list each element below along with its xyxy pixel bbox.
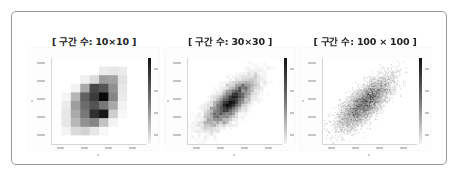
plot-card [300,48,430,150]
colorbar-tick [425,90,429,92]
colorbar-tick [425,134,429,136]
panel-100x100: [ 구간 수: 100 × 100 ] [300,12,430,162]
x-tick [328,147,335,149]
y-tick [308,80,316,82]
colorbar-tick [154,68,158,70]
x-tick [241,147,248,149]
y-tick [37,62,45,64]
panel-title: [ 구간 수: 30×30 ] [165,34,295,48]
panel-title: [ 구간 수: 100 × 100 ] [300,34,430,48]
x-axis-label [368,154,370,156]
y-tick [308,134,316,136]
y-axis-label [31,100,33,102]
heatmap-30x30 [187,58,282,145]
y-tick [37,116,45,118]
y-tick [173,116,181,118]
panel-title: [ 구간 수: 10×10 ] [29,34,159,48]
y-tick [173,62,181,64]
colorbar [419,58,422,144]
y-tick [37,98,45,100]
x-tick [57,147,64,149]
x-axis-label [233,154,235,156]
colorbar-tick [425,112,429,114]
x-tick [376,147,383,149]
y-tick [173,134,181,136]
colorbar [284,58,287,144]
heatmap-100x100 [322,58,417,145]
figure-frame: [ 구간 수: 10×10 ] [ 구간 수: 30×30 ] [11,11,447,165]
heatmap-10x10 [51,58,146,145]
x-tick [129,147,136,149]
x-tick [400,147,407,149]
x-tick [105,147,112,149]
colorbar-tick [154,90,158,92]
x-tick [81,147,88,149]
colorbar-tick [154,134,158,136]
y-axis-label [302,100,304,102]
x-tick [352,147,359,149]
y-tick [37,80,45,82]
x-tick [193,147,200,149]
x-tick [265,147,272,149]
x-tick [217,147,224,149]
colorbar-tick [290,68,294,70]
y-tick [308,62,316,64]
colorbar-tick [290,134,294,136]
panel-30x30: [ 구간 수: 30×30 ] [165,12,295,162]
colorbar-tick [425,68,429,70]
plot-card [29,48,159,150]
panel-10x10: [ 구간 수: 10×10 ] [29,12,159,162]
x-axis-label [97,154,99,156]
y-axis-label [167,100,169,102]
y-tick [173,98,181,100]
colorbar-tick [154,112,158,114]
y-tick [308,116,316,118]
plot-card [165,48,295,150]
y-tick [173,80,181,82]
colorbar-tick [290,112,294,114]
colorbar [148,58,151,144]
y-tick [308,98,316,100]
y-tick [37,134,45,136]
colorbar-tick [290,90,294,92]
